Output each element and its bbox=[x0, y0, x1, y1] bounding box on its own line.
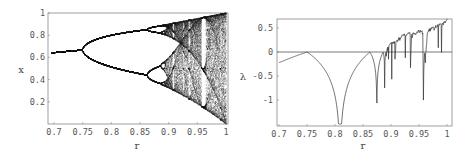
left-x-tick-label: 0.95 bbox=[187, 127, 207, 137]
right-x-tick-label: 0.9 bbox=[383, 129, 398, 139]
lyapunov-plot: 0.70.750.80.850.90.951 0.50-0.5-1 r λ bbox=[240, 19, 452, 151]
left-y-axis-title: x bbox=[18, 64, 24, 75]
right-x-tick-label: 0.85 bbox=[353, 129, 373, 139]
right-plot-frame bbox=[277, 19, 452, 126]
right-y-tick-label: -0.5 bbox=[253, 71, 273, 81]
right-x-tick-label: 0.75 bbox=[297, 129, 317, 139]
left-y-tick-label: 0.4 bbox=[30, 75, 45, 85]
right-y-tick-label: -1 bbox=[263, 95, 273, 105]
right-y-ticks: 0.50-0.5-1 bbox=[253, 23, 279, 105]
left-y-tick-label: 0.2 bbox=[30, 97, 45, 107]
left-x-tick-label: 0.85 bbox=[130, 127, 150, 137]
left-x-tick-label: 1 bbox=[223, 127, 228, 137]
left-x-axis-title: r bbox=[135, 140, 140, 151]
right-y-axis-title: λ bbox=[240, 71, 247, 82]
right-x-tick-label: 0.95 bbox=[409, 129, 429, 139]
left-x-tick-label: 0.75 bbox=[72, 127, 92, 137]
left-x-tick-label: 0.7 bbox=[46, 127, 61, 137]
right-x-tick-label: 0.8 bbox=[327, 129, 342, 139]
left-x-tick-label: 0.9 bbox=[161, 127, 176, 137]
bifurcation-plot: 0.70.750.80.850.90.951 0.20.40.60.81 r x bbox=[18, 8, 228, 151]
left-y-tick-label: 0.8 bbox=[30, 30, 45, 40]
right-y-tick-label: 0 bbox=[268, 47, 273, 57]
right-x-tick-label: 0.7 bbox=[271, 129, 286, 139]
left-y-tick-label: 0.6 bbox=[30, 52, 45, 62]
right-y-tick-label: 0.5 bbox=[258, 23, 273, 33]
figure: 0.70.750.80.850.90.951 0.20.40.60.81 r x… bbox=[0, 0, 467, 153]
right-x-axis-title: r bbox=[361, 140, 366, 151]
left-x-tick-label: 0.8 bbox=[104, 127, 119, 137]
left-y-tick-label: 1 bbox=[40, 8, 45, 18]
left-y-ticks: 0.20.40.60.81 bbox=[30, 8, 50, 107]
right-x-tick-label: 1 bbox=[444, 129, 449, 139]
